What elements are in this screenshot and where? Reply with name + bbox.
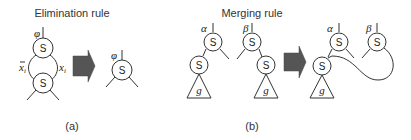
xi-label: xi [58, 61, 66, 75]
result-node-left-leg [106, 77, 115, 87]
right-g-label: g [263, 84, 269, 96]
panel-merging-rule: Merging rule α S S g β S S g [187, 7, 393, 132]
beta-right-edge [259, 49, 262, 57]
phi-annotation: φ [34, 27, 40, 39]
result-s-node-label: S [119, 65, 126, 76]
transform-arrow-icon [284, 46, 306, 78]
result-beta-left-edge [362, 49, 370, 58]
result-beta-to-shared-edge [328, 48, 393, 80]
bottom-node-left-leg [27, 90, 36, 100]
caption-a: (a) [65, 120, 78, 132]
panel-elimination-rule: Elimination rule φ S S xi xi φ [18, 7, 138, 132]
result-phi-annotation: φ [111, 49, 117, 61]
result-node-right-leg [129, 77, 138, 87]
merging-rule-title: Merging rule [221, 7, 282, 19]
result-alpha-right-edge [346, 49, 354, 58]
left-g-label: g [196, 84, 202, 96]
left-child-s-node-label: S [196, 60, 203, 71]
result-g-label: g [319, 84, 325, 96]
merging-left-tree: α S S g [187, 22, 229, 98]
transform-arrow-icon [73, 50, 95, 82]
merging-result-graph: α β S S S g [310, 22, 393, 98]
result-beta-annotation: β [365, 22, 372, 34]
bdd-reduction-rules-diagram: Elimination rule φ S S xi xi φ [0, 0, 411, 140]
result-beta-s-node-label: S [374, 37, 381, 48]
beta-s-node-label: S [249, 37, 256, 48]
alpha-annotation: α [201, 22, 207, 34]
result-shared-s-node-label: S [319, 61, 326, 72]
merging-right-tree: β S S g [237, 22, 278, 98]
right-child-s-node-label: S [263, 60, 270, 71]
alpha-left-edge [203, 49, 206, 56]
bottom-node-right-leg [50, 90, 59, 100]
elimination-rule-title: Elimination rule [34, 7, 109, 19]
alpha-right-edge [220, 49, 229, 59]
elimination-after-graph: φ S [106, 49, 138, 87]
result-alpha-s-node-label: S [336, 37, 343, 48]
bottom-s-node-label: S [40, 78, 47, 89]
result-alpha-annotation: α [327, 22, 333, 34]
top-s-node-label: S [40, 43, 47, 54]
beta-left-edge [237, 49, 245, 59]
alpha-s-node-label: S [210, 37, 217, 48]
beta-annotation: β [242, 22, 249, 34]
caption-b: (b) [245, 120, 258, 132]
elimination-before-graph: φ S S xi xi [18, 27, 66, 100]
negated-xi-label: xi [18, 61, 26, 75]
